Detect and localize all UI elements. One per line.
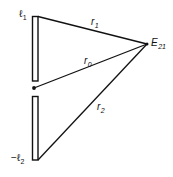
label-E21-main: E [151,37,158,48]
label-r2-sub: 2 [101,107,105,114]
label-E21-sub: 21 [158,43,166,50]
label-r2-main: r [97,101,100,112]
label-minus-l2-main: −ℓ [11,152,20,163]
label-r0: r0 [84,56,92,66]
label-r1-main: r [91,16,94,27]
label-E21: E21 [151,38,166,48]
label-r1-sub: 1 [95,22,99,29]
label-l1: ℓ1 [19,9,27,19]
label-minus-l2-sub: 2 [21,158,25,165]
label-r0-main: r [84,55,87,66]
label-r2: r2 [97,102,105,112]
line-r2 [38,44,147,160]
upper-plate [33,17,39,82]
label-l1-main: ℓ [19,8,22,19]
label-l1-sub: 1 [23,14,27,21]
label-r1: r1 [91,17,99,27]
diagram-canvas [0,0,173,177]
label-minus-l2: −ℓ2 [11,153,24,163]
label-r0-sub: 0 [88,61,92,68]
lower-plate [33,97,39,161]
field-point-dot [146,43,149,46]
origin-dot [32,86,36,90]
